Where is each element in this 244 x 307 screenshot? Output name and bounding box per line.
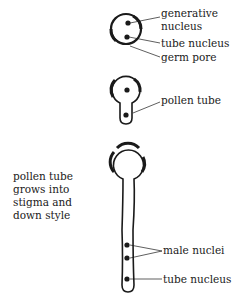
stage3-caption: pollen tube grows into stigma and down s… xyxy=(13,170,93,222)
label-germ-pore: germ pore xyxy=(161,51,217,63)
generative-nucleus xyxy=(125,20,130,25)
label-generative: generative xyxy=(161,7,218,19)
stage2-germinating-grain: pollen tube xyxy=(111,76,221,124)
nucleus-tube-stage2 xyxy=(123,112,128,117)
label-pollen-tube: pollen tube xyxy=(161,94,221,106)
tube-nucleus-stage3 xyxy=(124,276,129,281)
pollen-germination-diagram: generative nucleus tube nucleus germ por… xyxy=(0,0,244,307)
stage1-pollen-grain: generative nucleus tube nucleus germ por… xyxy=(111,7,229,63)
stage3-long-pollen-tube: male nuclei tube nucleus xyxy=(110,143,231,292)
nucleus-stage2 xyxy=(124,87,129,92)
label-tube-nucleus-1: tube nucleus xyxy=(161,37,229,49)
male-nucleus-1 xyxy=(124,242,129,247)
male-nucleus-2 xyxy=(124,255,129,260)
tube-nucleus-1 xyxy=(124,34,129,39)
caption-line: pollen tube xyxy=(13,170,93,183)
caption-line: grows into xyxy=(13,183,93,196)
caption-line: down style xyxy=(13,209,93,222)
label-tube-nucleus-3: tube nucleus xyxy=(163,273,231,285)
caption-line: stigma and xyxy=(13,196,93,209)
label-male-nuclei: male nuclei xyxy=(163,244,225,256)
label-nucleus: nucleus xyxy=(161,20,202,32)
